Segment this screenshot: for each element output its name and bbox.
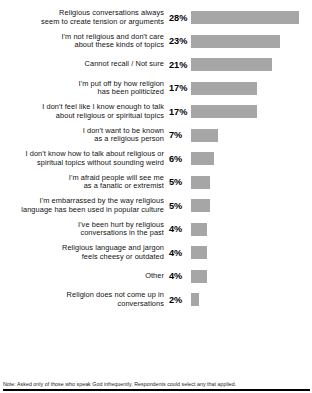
bar-track [191, 265, 312, 289]
bar [191, 35, 280, 48]
bar-row-value: 17% [168, 83, 191, 93]
bar-row-label: Religious language and jargonfeels chees… [0, 244, 168, 261]
bar-row-value: 4% [168, 248, 191, 258]
bar-row-label-line: Other [0, 272, 164, 281]
bar-row: Cannot recall / Not sure21% [0, 53, 312, 77]
bar-row-label-line: conversations in the past [0, 229, 164, 238]
footer-rule [3, 389, 310, 391]
bar-row-label: I don't feel like I know enough to talka… [0, 103, 168, 120]
bar-track [191, 171, 312, 195]
bar-row-value: 4% [168, 224, 191, 234]
bar-row: I'm put off by how religionhas been poli… [0, 77, 312, 101]
bar-row: I've been hurt by religiousconversations… [0, 218, 312, 242]
bar-row-label: I'm not religious and don't careabout th… [0, 33, 168, 50]
bar [191, 105, 257, 118]
bar-track [191, 241, 312, 265]
chart-note: Note: Asked only of those who speak God … [3, 381, 310, 388]
bar-track [191, 53, 312, 77]
bar-row-label: I've been hurt by religiousconversations… [0, 221, 168, 238]
bar-row-value: 6% [168, 154, 191, 164]
bar-row-label: I don't know how to talk about religious… [0, 150, 168, 167]
bar-row-value: 4% [168, 271, 191, 281]
bar-row: Religion does not come up inconversation… [0, 288, 312, 312]
bar-row-label: Religious conversations alwaysseem to cr… [0, 9, 168, 26]
bar-track [191, 194, 312, 218]
bar-track [191, 218, 312, 242]
bar-row: Religious conversations alwaysseem to cr… [0, 6, 312, 30]
bar-track [191, 288, 312, 312]
bar-row-value: 5% [168, 177, 191, 187]
chart-footer: Note: Asked only of those who speak God … [0, 381, 312, 393]
bar-row-label: Religion does not come up inconversation… [0, 291, 168, 308]
bar-chart: Religious conversations alwaysseem to cr… [0, 0, 312, 393]
bar-row: I don't know how to talk about religious… [0, 147, 312, 171]
bar-row-label-line: has been politicized [0, 88, 164, 97]
bar [191, 152, 214, 165]
bar-track [191, 6, 312, 30]
bar-row-label-line: as a fanatic or extremist [0, 182, 164, 191]
bar-row: I'm embarrassed by the way religiouslang… [0, 194, 312, 218]
bar [191, 11, 299, 24]
bar-track [191, 77, 312, 101]
bar-row: I'm afraid people will see meas a fanati… [0, 171, 312, 195]
bar [191, 223, 207, 236]
bar [191, 246, 207, 259]
bar-row-label: I'm afraid people will see meas a fanati… [0, 174, 168, 191]
bar-track [191, 124, 312, 148]
bar-row-label: I'm put off by how religionhas been poli… [0, 80, 168, 97]
bar-row-label: I'm embarrassed by the way religiouslang… [0, 197, 168, 214]
bar-row-value: 21% [168, 60, 191, 70]
bar-row-value: 17% [168, 107, 191, 117]
bar-row-label-line: feels cheesy or outdated [0, 253, 164, 262]
bar-row-value: 5% [168, 201, 191, 211]
bar-row-value: 7% [168, 130, 191, 140]
bar [191, 58, 272, 71]
bar-track [191, 147, 312, 171]
bar [191, 176, 210, 189]
bar-chart-rows: Religious conversations alwaysseem to cr… [0, 6, 312, 312]
bar-row-label-line: conversations [0, 300, 164, 309]
bar-row-label-line: spiritual topics without sounding weird [0, 159, 164, 168]
bar [191, 129, 218, 142]
bar-row-label-line: seem to create tension or arguments [0, 18, 164, 27]
bar [191, 293, 199, 306]
bar-row-value: 23% [168, 36, 191, 46]
bar-row-label: Cannot recall / Not sure [0, 60, 168, 69]
bar-row-label-line: about these kinds of topics [0, 41, 164, 50]
bar-row-label: I don't want to be knownas a religious p… [0, 127, 168, 144]
bar-row-value: 2% [168, 295, 191, 305]
bar-row-value: 28% [168, 13, 191, 23]
bar-row: Other4% [0, 265, 312, 289]
bar-row: I don't want to be knownas a religious p… [0, 124, 312, 148]
bar-row: I'm not religious and don't careabout th… [0, 30, 312, 54]
bar-row-label-line: Cannot recall / Not sure [0, 60, 164, 69]
bar-track [191, 30, 312, 54]
bar-row-label-line: language has been used in popular cultur… [0, 206, 164, 215]
bar-row: I don't feel like I know enough to talka… [0, 100, 312, 124]
bar [191, 82, 257, 95]
bar-row-label-line: about religious or spiritual topics [0, 112, 164, 121]
bar-row: Religious language and jargonfeels chees… [0, 241, 312, 265]
bar-row-label-line: as a religious person [0, 135, 164, 144]
bar [191, 199, 210, 212]
bar [191, 270, 207, 283]
bar-track [191, 100, 312, 124]
bar-row-label: Other [0, 272, 168, 281]
